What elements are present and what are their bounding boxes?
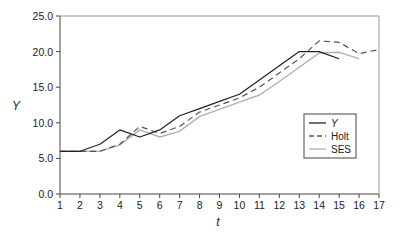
x-tick-label: 9 [217, 199, 223, 211]
x-tick-label: 5 [137, 199, 143, 211]
axes: 0.05.010.015.020.025.0123456789101112131… [33, 10, 385, 211]
x-tick-label: 2 [77, 199, 83, 211]
x-tick-label: 12 [273, 199, 285, 211]
x-tick-label: 1 [57, 199, 63, 211]
x-tick-label: 16 [353, 199, 365, 211]
y-tick-label: 0.0 [38, 188, 53, 200]
x-tick-label: 7 [177, 199, 183, 211]
line-chart: 0.05.010.015.020.025.0123456789101112131… [0, 0, 403, 235]
series-line-y [60, 52, 339, 152]
y-tick-label: 5.0 [38, 152, 53, 164]
legend-label-ses: SES [331, 144, 351, 155]
x-tick-label: 13 [293, 199, 305, 211]
y-tick-label: 10.0 [33, 117, 54, 129]
legend-label-holt: Holt [331, 131, 349, 142]
x-tick-label: 14 [313, 199, 325, 211]
legend: YHoltSES [304, 114, 356, 158]
x-axis-title: t [216, 215, 220, 229]
x-tick-label: 15 [333, 199, 345, 211]
x-tick-label: 8 [197, 199, 203, 211]
y-axis-title: Y [12, 99, 21, 113]
x-tick-label: 10 [234, 199, 246, 211]
x-tick-label: 17 [373, 199, 385, 211]
y-tick-label: 15.0 [33, 81, 54, 93]
x-tick-label: 11 [254, 199, 265, 211]
y-tick-label: 20.0 [33, 46, 54, 58]
x-tick-label: 4 [117, 199, 123, 211]
x-tick-label: 3 [97, 199, 103, 211]
x-tick-label: 6 [157, 199, 163, 211]
y-tick-label: 25.0 [33, 10, 54, 22]
